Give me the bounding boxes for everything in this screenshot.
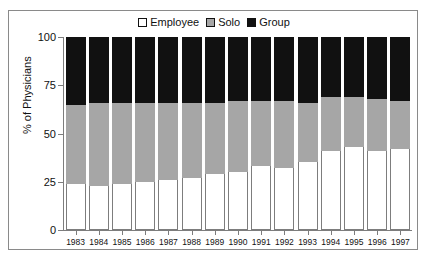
bar-segment-employee [367, 151, 387, 230]
bar-segment-group [274, 37, 294, 101]
bar-segment-solo [112, 103, 132, 184]
x-axis-tick [168, 230, 169, 235]
bar-stack [274, 37, 294, 230]
bar-segment-group [112, 37, 132, 103]
bar-stack [344, 37, 364, 230]
legend-label-group: Group [259, 17, 290, 28]
bar-segment-solo [205, 103, 225, 174]
legend-swatch-employee-icon [138, 18, 147, 27]
legend-swatch-group-icon [247, 18, 256, 27]
bar-stack [66, 37, 86, 230]
bar-segment-solo [135, 103, 155, 182]
bar-segment-employee [89, 186, 109, 230]
y-axis-tick [58, 134, 64, 135]
bar-stack [135, 37, 155, 230]
y-axis-tick [58, 37, 64, 38]
bar-segment-employee [251, 166, 271, 230]
bar-segment-solo [298, 103, 318, 163]
bar-segment-group [367, 37, 387, 99]
x-axis-tick [122, 230, 123, 235]
x-axis-tick-label: 1997 [391, 237, 410, 247]
bar-segment-employee [158, 180, 178, 230]
x-axis-tick [76, 230, 77, 235]
x-axis-tick [284, 230, 285, 235]
x-axis-tick-label: 1984 [89, 237, 108, 247]
x-axis-tick-label: 1989 [205, 237, 224, 247]
x-axis-tick-label: 1992 [275, 237, 294, 247]
x-axis-tick-label: 1985 [113, 237, 132, 247]
bar-stack [390, 37, 410, 230]
bar-segment-group [251, 37, 271, 101]
bar-segment-employee [66, 184, 86, 230]
chart-legend: Employee Solo Group [9, 17, 419, 28]
bar-stack [228, 37, 248, 230]
bar-segment-group [228, 37, 248, 101]
bar-segment-employee [182, 178, 202, 230]
legend-item-group: Group [247, 17, 290, 28]
bar-segment-group [298, 37, 318, 103]
bar-segment-group [89, 37, 109, 103]
bar-stack [182, 37, 202, 230]
x-axis-tick [400, 230, 401, 235]
bar-segment-group [135, 37, 155, 103]
legend-item-employee: Employee [138, 17, 199, 28]
legend-item-solo: Solo [206, 17, 240, 28]
x-axis-tick-label: 1994 [321, 237, 340, 247]
x-axis-tick [261, 230, 262, 235]
x-axis-tick-label: 1988 [182, 237, 201, 247]
bar-segment-employee [205, 174, 225, 230]
bar-segment-solo [274, 101, 294, 169]
bar-stack [251, 37, 271, 230]
bar-segment-group [66, 37, 86, 105]
y-axis-tick-label: 100 [26, 31, 56, 43]
bar-segment-solo [321, 97, 341, 151]
plot-area: 0255075100198319841985198619871988198919… [63, 37, 412, 231]
y-axis-tick [58, 85, 64, 86]
bar-segment-solo [66, 105, 86, 184]
y-axis-title: % of Physicians [21, 56, 33, 134]
chart-figure: Employee Solo Group % of Physicians 0255… [8, 10, 418, 250]
legend-swatch-solo-icon [206, 18, 215, 27]
x-axis-tick [331, 230, 332, 235]
bar-segment-group [390, 37, 410, 101]
x-axis-tick-label: 1983 [66, 237, 85, 247]
x-axis-tick-label: 1986 [136, 237, 155, 247]
bar-segment-solo [89, 103, 109, 186]
bar-segment-group [344, 37, 364, 97]
x-axis-tick-label: 1993 [298, 237, 317, 247]
x-axis-tick [238, 230, 239, 235]
bar-segment-group [182, 37, 202, 103]
y-axis-tick-label: 25 [26, 176, 56, 188]
legend-label-solo: Solo [218, 17, 240, 28]
bar-segment-group [205, 37, 225, 103]
bar-stack [321, 37, 341, 230]
bar-segment-employee [274, 168, 294, 230]
x-axis-tick-label: 1996 [368, 237, 387, 247]
x-axis-tick-label: 1987 [159, 237, 178, 247]
bar-stack [205, 37, 225, 230]
bar-segment-employee [112, 184, 132, 230]
bar-segment-group [321, 37, 341, 97]
x-axis-tick [354, 230, 355, 235]
bar-segment-employee [344, 147, 364, 230]
bar-segment-employee [321, 151, 341, 230]
x-axis-tick [215, 230, 216, 235]
bar-stack [158, 37, 178, 230]
x-axis-tick-label: 1990 [229, 237, 248, 247]
x-axis-tick [145, 230, 146, 235]
x-axis-tick [99, 230, 100, 235]
x-axis-tick [308, 230, 309, 235]
x-axis-tick-label: 1991 [252, 237, 271, 247]
bar-segment-solo [182, 103, 202, 178]
bar-stack [89, 37, 109, 230]
y-axis-tick [58, 230, 64, 231]
y-axis-tick-label: 50 [26, 128, 56, 140]
bar-segment-group [158, 37, 178, 103]
bar-segment-employee [228, 172, 248, 230]
bar-segment-solo [228, 101, 248, 172]
bar-segment-employee [135, 182, 155, 230]
bar-stack [367, 37, 387, 230]
bar-segment-solo [390, 101, 410, 149]
y-axis-tick-label: 0 [26, 224, 56, 236]
y-axis-tick [58, 182, 64, 183]
